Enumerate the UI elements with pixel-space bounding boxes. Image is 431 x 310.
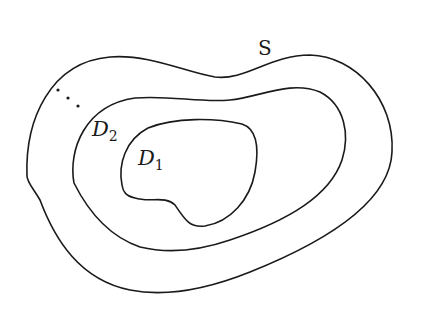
- label-d2-subscript: 2: [109, 128, 118, 144]
- middle-region-d2-curve: [73, 88, 346, 251]
- label-d2: D2: [91, 117, 118, 144]
- ellipsis-dots: [56, 88, 79, 107]
- label-d1: D1: [137, 146, 164, 173]
- label-d1-main: D: [137, 146, 155, 170]
- outer-region-s-curve: [27, 55, 392, 293]
- label-s: S: [258, 36, 272, 60]
- nested-regions-diagram: S D2 D1: [0, 0, 431, 310]
- label-d1-subscript: 1: [155, 157, 164, 173]
- inner-region-d1-curve: [121, 120, 257, 227]
- label-d2-main: D: [91, 117, 109, 141]
